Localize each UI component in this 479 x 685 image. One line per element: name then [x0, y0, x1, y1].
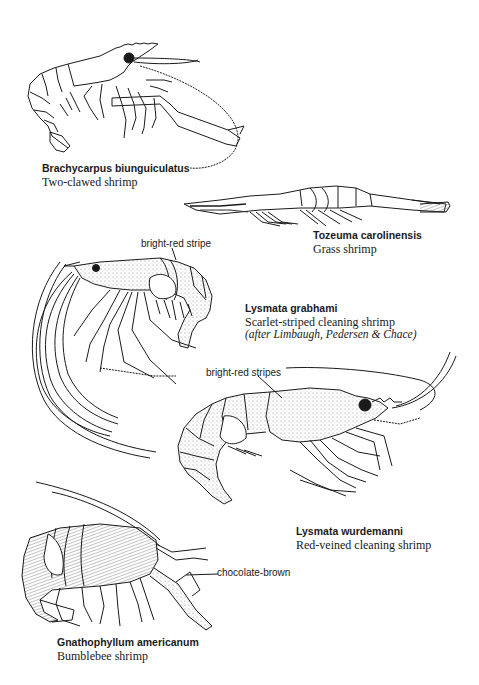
species-1-scientific-name: Brachycarpus biunguiculatus: [42, 162, 190, 174]
species-3-scientific-name: Lysmata grabhami: [245, 302, 337, 314]
species-4-annotation: bright-red stripes: [206, 367, 281, 378]
species-1-common-name: Two-clawed shrimp: [42, 175, 137, 190]
shrimp-illustrations: [0, 0, 479, 685]
species-3-annotation: bright-red stripe: [141, 238, 211, 249]
bumblebee-shrimp-drawing: [22, 482, 218, 630]
species-5-scientific-name: Gnathophyllum americanum: [57, 636, 199, 648]
species-3-credit: (after Limbaugh, Pedersen & Chace): [245, 328, 417, 340]
species-5-common-name: Bumblebee shrimp: [57, 649, 148, 664]
species-4-scientific-name: Lysmata wurdemanni: [296, 525, 403, 537]
grass-shrimp-drawing: [184, 186, 450, 226]
species-5-annotation: chocolate-brown: [217, 567, 290, 578]
field-guide-page: Brachycarpus biunguiculatus Two-clawed s…: [0, 0, 479, 685]
species-4-common-name: Red-veined cleaning shrimp: [296, 538, 431, 553]
species-2-common-name: Grass shrimp: [313, 242, 377, 257]
two-clawed-shrimp-drawing: [28, 43, 244, 168]
species-2-scientific-name: Tozeuma carolinensis: [313, 229, 422, 241]
